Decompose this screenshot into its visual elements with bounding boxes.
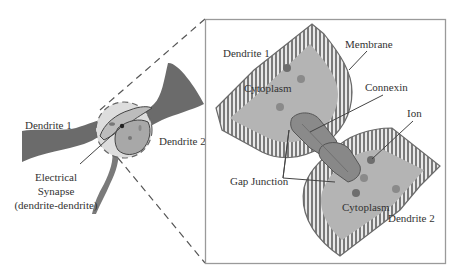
inset-label-connexin: Connexin bbox=[365, 81, 408, 93]
overview-label-dendrite-1: Dendrite 1 bbox=[25, 119, 72, 131]
synapse-contact-point bbox=[120, 124, 124, 128]
electrical-synapse-diagram: Dendrite 1 Dendrite 2 Electrical Synapse… bbox=[0, 0, 462, 278]
ion bbox=[352, 189, 360, 197]
ion bbox=[276, 103, 284, 111]
inset-label-cytoplasm-bottom: Cytoplasm bbox=[342, 201, 390, 213]
organelle bbox=[128, 136, 132, 140]
overview-label-synapse-3: (dendrite-dendrite) bbox=[14, 199, 97, 212]
inset-label-membrane: Membrane bbox=[345, 38, 393, 50]
organelle bbox=[139, 125, 142, 131]
inset-panel: Dendrite 1 Cytoplasm Membrane Connexin I… bbox=[206, 20, 446, 264]
inset-label-dendrite-1: Dendrite 1 bbox=[223, 47, 270, 59]
overview-label-dendrite-2: Dendrite 2 bbox=[159, 135, 206, 147]
inset-label-gap-junction: Gap Junction bbox=[230, 175, 289, 187]
inset-label-dendrite-2: Dendrite 2 bbox=[388, 212, 435, 224]
ion bbox=[360, 174, 368, 182]
inset-label-ion: Ion bbox=[407, 107, 422, 119]
ion bbox=[297, 75, 305, 83]
zoom-line-bottom bbox=[118, 158, 205, 263]
ion bbox=[392, 185, 400, 193]
overview-panel: Dendrite 1 Dendrite 2 Electrical Synapse… bbox=[14, 19, 205, 263]
organelle bbox=[109, 122, 115, 126]
overview-label-synapse-2: Synapse bbox=[38, 185, 75, 197]
overview-label-synapse-1: Electrical bbox=[35, 171, 77, 183]
ion bbox=[283, 64, 291, 72]
inset-label-cytoplasm-top: Cytoplasm bbox=[244, 82, 292, 94]
